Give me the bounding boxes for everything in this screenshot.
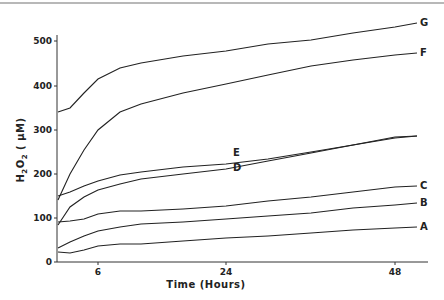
series-label-f: F — [420, 47, 427, 58]
svg-text:H2O2 ( μM): H2O2 ( μM) — [15, 117, 29, 182]
chart: 500 400 300 200 100 0 6 24 48 Time (Hour… — [0, 0, 444, 300]
x-tick-48: 48 — [389, 267, 402, 277]
series-label-c: C — [420, 180, 427, 191]
y-tick-300: 300 — [33, 125, 52, 135]
series-b-line — [58, 203, 417, 248]
series-label-b: B — [420, 197, 428, 208]
y-tick-400: 400 — [33, 81, 52, 91]
series-label-d: D — [233, 162, 241, 173]
y-tick-100: 100 — [33, 213, 52, 223]
series-label-e: E — [233, 147, 240, 158]
y-tick-200: 200 — [33, 169, 52, 179]
y-ticks: 500 400 300 200 100 0 — [33, 36, 57, 267]
y-tick-500: 500 — [33, 36, 52, 46]
y-tick-0: 0 — [46, 257, 52, 267]
x-tick-6: 6 — [95, 267, 101, 277]
y-axis-title: H2O2 ( μM) — [15, 117, 29, 182]
x-tick-24: 24 — [220, 267, 233, 277]
series-lines — [58, 23, 417, 253]
series-g-line — [58, 23, 417, 112]
series-label-a: A — [420, 221, 428, 232]
series-label-g: G — [420, 17, 428, 28]
series-f-line — [58, 53, 417, 200]
x-ticks: 6 24 48 — [95, 262, 401, 277]
series-a-line — [58, 227, 417, 253]
x-axis-title: Time (Hours) — [166, 279, 245, 290]
series-c-line — [58, 186, 417, 222]
